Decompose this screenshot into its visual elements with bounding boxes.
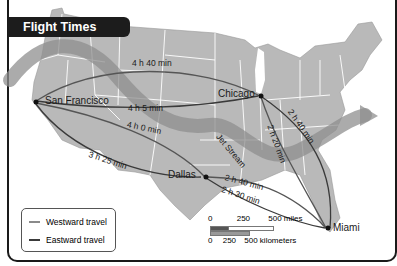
scale-km: 0 250 500 kilometers xyxy=(208,236,296,245)
san-francisco-dot xyxy=(34,100,39,105)
scale-km-500: 500 kilometers xyxy=(244,236,296,245)
label-san-francisco: San Francisco xyxy=(45,95,109,106)
legend: Westward travel Eastward travel xyxy=(21,208,116,252)
legend-eastward-label: Eastward travel xyxy=(46,235,105,245)
time-sf-chicago: 4 h 5 min xyxy=(128,103,163,113)
eastward-swatch xyxy=(29,239,40,241)
miami-dot xyxy=(326,226,331,231)
scale-km-250: 250 xyxy=(223,236,236,245)
legend-westward: Westward travel xyxy=(29,217,107,227)
map-title: Flight Times xyxy=(8,17,130,37)
chicago-dot xyxy=(259,94,264,99)
dallas-dot xyxy=(204,175,209,180)
legend-eastward: Eastward travel xyxy=(29,235,105,245)
scale-miles: 0 250 500 miles xyxy=(208,214,303,223)
label-dallas: Dallas xyxy=(168,169,196,180)
scale-miles-0: 0 xyxy=(208,214,212,223)
scale-km-0: 0 xyxy=(208,236,212,245)
scale-miles-500: 500 miles xyxy=(268,214,302,223)
scale-miles-250: 250 xyxy=(237,214,250,223)
label-chicago: Chicago xyxy=(218,88,255,99)
time-chicago-sf: 4 h 40 min xyxy=(132,58,172,68)
westward-swatch xyxy=(29,221,40,223)
legend-westward-label: Westward travel xyxy=(46,217,107,227)
label-miami: Miami xyxy=(333,222,360,233)
